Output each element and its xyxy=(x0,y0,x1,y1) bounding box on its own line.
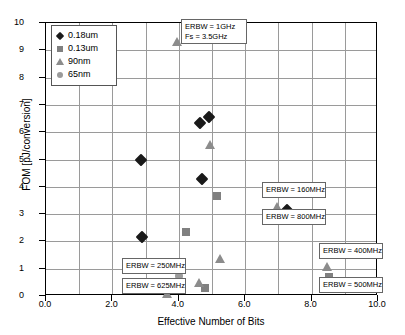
anno-erbw-160mhz: ERBW = 160MHz xyxy=(262,182,326,198)
legend-item-label: 90nm xyxy=(68,57,91,66)
x-axis-tick-label: 10.0 xyxy=(357,300,397,309)
square-marker-icon xyxy=(57,46,63,52)
annotation-line: ERBW = 400MHz xyxy=(323,246,379,256)
chart-legend: 0.18um0.13um90nm65nm xyxy=(51,25,117,86)
x-axis-tick-mark xyxy=(244,295,245,301)
legend-item-label: 65nm xyxy=(68,70,91,79)
x-axis-tick-label: 6.0 xyxy=(224,300,264,309)
x-axis-tick-label: 0.0 xyxy=(25,300,65,309)
gridline-horizontal xyxy=(46,160,376,161)
gridline-horizontal xyxy=(46,105,376,106)
legend-item-90nm[interactable]: 90nm xyxy=(55,55,112,68)
data-point-0-18um xyxy=(196,173,209,186)
annotation-line: ERBW = 800MHz xyxy=(266,212,322,222)
x-axis-tick-mark xyxy=(178,295,179,301)
data-point-90nm xyxy=(215,254,225,263)
y-axis-tick-label: 7 xyxy=(0,99,24,108)
circle-marker-icon xyxy=(57,72,63,78)
x-axis-tick-mark xyxy=(311,295,312,301)
x-axis-tick-label: 4.0 xyxy=(158,300,198,309)
x-axis-tick-mark xyxy=(45,295,46,301)
gridline-horizontal xyxy=(46,132,376,133)
data-point-0-13um xyxy=(213,192,221,200)
y-axis-tick-label: 9 xyxy=(0,45,24,54)
x-axis-tick-label: 2.0 xyxy=(91,300,131,309)
data-point-90nm xyxy=(194,278,204,287)
gridline-vertical xyxy=(179,23,180,294)
annotation-line: Fs = 3.5GHz xyxy=(185,32,243,42)
anno-erbw-1ghz: ERBW = 1GHzFs = 3.5GHz xyxy=(181,19,247,44)
gridline-vertical xyxy=(278,23,279,294)
x-axis-tick-mark xyxy=(111,295,112,301)
annotation-line: ERBW = 500MHz xyxy=(323,280,379,290)
anno-erbw-400mhz: ERBW = 400MHz xyxy=(319,243,383,259)
x-axis-tick-label: 8.0 xyxy=(291,300,331,309)
anno-erbw-800mhz: ERBW = 800MHz xyxy=(262,209,326,225)
y-axis-tick-label: 6 xyxy=(0,127,24,136)
annotation-line: ERBW = 250MHz xyxy=(126,261,182,271)
y-axis-tick-label: 5 xyxy=(0,154,24,163)
legend-item-label: 0.18um xyxy=(68,31,98,40)
triangle-marker-icon xyxy=(56,58,64,65)
legend-item-label: 0.13um xyxy=(68,44,98,53)
legend-item-65nm[interactable]: 65nm xyxy=(55,68,112,81)
anno-erbw-625mhz: ERBW = 625MHz xyxy=(122,278,186,294)
y-axis-tick-label: 10 xyxy=(0,18,24,27)
y-axis-tick-label: 8 xyxy=(0,72,24,81)
gridline-vertical xyxy=(312,23,313,294)
x-axis-tick-mark xyxy=(377,295,378,301)
data-point-90nm xyxy=(205,140,215,149)
data-point-90nm xyxy=(322,262,332,271)
legend-item-0-13um[interactable]: 0.13um xyxy=(55,42,112,55)
gridline-horizontal xyxy=(46,187,376,188)
y-axis-tick-label: 2 xyxy=(0,236,24,245)
y-axis-tick-label: 0 xyxy=(0,291,24,300)
y-axis-tick-label: 3 xyxy=(0,209,24,218)
annotation-line: ERBW = 160MHz xyxy=(266,185,322,195)
gridline-vertical xyxy=(245,23,246,294)
diamond-marker-icon xyxy=(56,31,64,39)
gridline-vertical xyxy=(212,23,213,294)
legend-item-0-18um[interactable]: 0.18um xyxy=(55,29,112,42)
x-axis-label: Effective Number of Bits xyxy=(45,316,377,327)
annotation-line: ERBW = 1GHz xyxy=(185,22,243,32)
scatter-chart: FOM [pJ/conversion] Effective Number of … xyxy=(0,0,405,335)
y-axis-tick-label: 1 xyxy=(0,263,24,272)
data-point-0-13um xyxy=(182,228,190,236)
annotation-line: ERBW = 625MHz xyxy=(126,281,182,291)
gridline-horizontal xyxy=(46,214,376,215)
anno-erbw-500mhz: ERBW = 500MHz xyxy=(319,277,383,293)
anno-erbw-250mhz: ERBW = 250MHz xyxy=(122,258,186,274)
y-axis-tick-label: 4 xyxy=(0,181,24,190)
